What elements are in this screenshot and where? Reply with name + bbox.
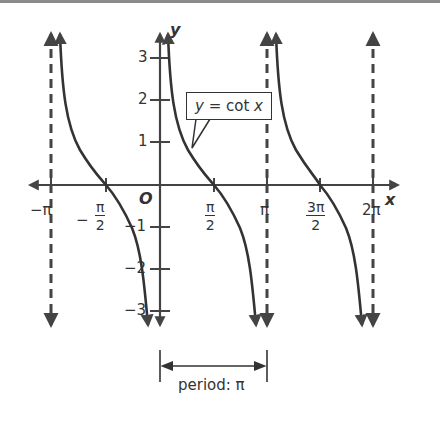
callout-var-y: y	[195, 97, 204, 115]
frac-den: 2	[206, 216, 215, 232]
callout-var-x: x	[254, 97, 263, 115]
period-label: period: π	[178, 378, 245, 393]
x-tick-half-pi: π 2	[205, 200, 215, 232]
frac-den: 2	[311, 216, 320, 232]
cot-branch-2	[168, 34, 256, 325]
y-axis-label: y	[170, 22, 180, 38]
y-tick-neg-3: −3	[124, 303, 146, 318]
y-tick-3: 3	[138, 50, 148, 65]
x-tick-two-pi: 2π	[362, 203, 381, 218]
callout-eq: = cot	[204, 97, 254, 115]
y-tick-2: 2	[138, 92, 148, 107]
callout-pointer	[192, 119, 210, 148]
frac-num: 3π	[306, 200, 325, 216]
cot-branch-1	[60, 34, 148, 325]
frac-num: π	[205, 200, 215, 216]
x-tick-neg-half-pi: π 2	[95, 200, 105, 232]
x-tick-pi: π	[260, 203, 269, 218]
x-tick-three-half-pi: 3π 2	[306, 200, 325, 232]
frac-num: π	[95, 200, 105, 216]
x-tick-neg-half-pi-sign: −	[76, 213, 89, 228]
y-tick-neg-1: −1	[124, 219, 146, 234]
x-tick-neg-pi: −π	[30, 203, 52, 218]
x-axis-label: x	[385, 192, 395, 208]
asymptotes	[51, 34, 373, 325]
frac-den: 2	[96, 216, 105, 232]
origin-label: O	[139, 191, 153, 207]
y-tick-1: 1	[138, 134, 148, 149]
function-label-callout: y = cot x	[186, 92, 272, 120]
y-tick-neg-2: −2	[124, 261, 146, 276]
